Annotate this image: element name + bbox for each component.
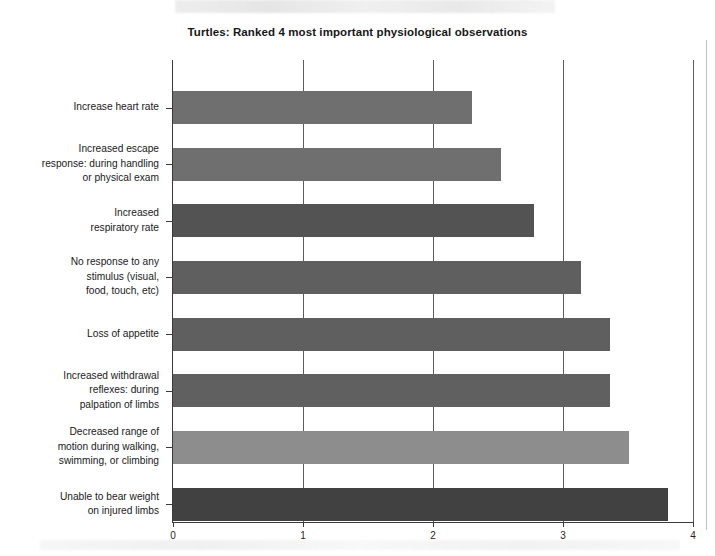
bar [173, 374, 610, 407]
category-label: Loss of appetite [0, 327, 159, 342]
bar [173, 318, 610, 351]
y-tick [166, 334, 172, 335]
x-tick-0 [173, 522, 174, 527]
x-tick-label-4: 4 [678, 530, 708, 541]
page-edge-line [706, 40, 707, 530]
scan-artifact-top [175, 0, 555, 13]
y-tick [166, 221, 172, 222]
gridline-x-4 [693, 60, 694, 522]
bar [173, 261, 581, 294]
bar [173, 91, 472, 124]
category-label: Increased respiratory rate [0, 206, 159, 235]
bar [173, 488, 668, 521]
category-label: Increased withdrawal reflexes: during pa… [0, 369, 159, 413]
bar [173, 148, 501, 181]
y-tick [166, 391, 172, 392]
bar [173, 431, 629, 464]
y-tick [166, 277, 172, 278]
x-tick-2 [433, 522, 434, 527]
x-tick-1 [303, 522, 304, 527]
x-tick-3 [563, 522, 564, 527]
x-tick-label-0: 0 [158, 530, 188, 541]
x-tick-label-1: 1 [288, 530, 318, 541]
x-tick-label-2: 2 [418, 530, 448, 541]
category-label: Increase heart rate [0, 100, 159, 115]
x-tick-4 [693, 522, 694, 527]
category-label: No response to any stimulus (visual, foo… [0, 255, 159, 299]
category-label: Decreased range of motion during walking… [0, 425, 159, 469]
category-label: Unable to bear weight on injured limbs [0, 490, 159, 519]
y-tick [166, 108, 172, 109]
category-label-column: Increase heart rateIncreased escape resp… [0, 0, 167, 556]
category-label: Increased escape response: during handli… [0, 142, 159, 186]
bar [173, 204, 534, 237]
x-tick-label-3: 3 [548, 530, 578, 541]
plot-area: 01234 [173, 60, 693, 522]
y-tick [166, 164, 172, 165]
y-tick [166, 504, 172, 505]
y-tick [166, 447, 172, 448]
